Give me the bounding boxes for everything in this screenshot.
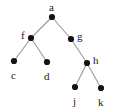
tree-edge-a-f bbox=[31, 17, 52, 38]
tree-node-label-d: d bbox=[44, 71, 50, 82]
tree-node-label-j: j bbox=[73, 96, 76, 107]
tree-node-label-g: g bbox=[77, 31, 83, 42]
node-layer bbox=[11, 14, 104, 91]
tree-node-k[interactable] bbox=[98, 85, 104, 91]
tree-node-c[interactable] bbox=[11, 58, 17, 64]
tree-node-label-a: a bbox=[49, 2, 54, 13]
tree-node-label-h: h bbox=[93, 55, 99, 66]
tree-canvas bbox=[0, 0, 118, 110]
tree-edge-h-j bbox=[75, 63, 87, 87]
tree-node-d[interactable] bbox=[44, 59, 50, 65]
tree-node-a[interactable] bbox=[49, 14, 55, 20]
tree-node-label-c: c bbox=[11, 70, 16, 81]
tree-node-j[interactable] bbox=[72, 84, 78, 90]
tree-edge-f-d bbox=[31, 38, 47, 62]
tree-node-label-f: f bbox=[21, 30, 25, 41]
tree-edge-a-g bbox=[52, 17, 71, 39]
tree-node-label-k: k bbox=[98, 97, 104, 108]
edge-layer bbox=[14, 17, 101, 88]
tree-edge-f-c bbox=[14, 38, 31, 61]
tree-node-h[interactable] bbox=[84, 60, 90, 66]
tree-node-f[interactable] bbox=[28, 35, 34, 41]
binary-tree-diagram: afgcdhjk bbox=[0, 0, 118, 110]
tree-node-g[interactable] bbox=[68, 36, 74, 42]
tree-edge-g-h bbox=[71, 39, 87, 63]
tree-edge-h-k bbox=[87, 63, 101, 88]
